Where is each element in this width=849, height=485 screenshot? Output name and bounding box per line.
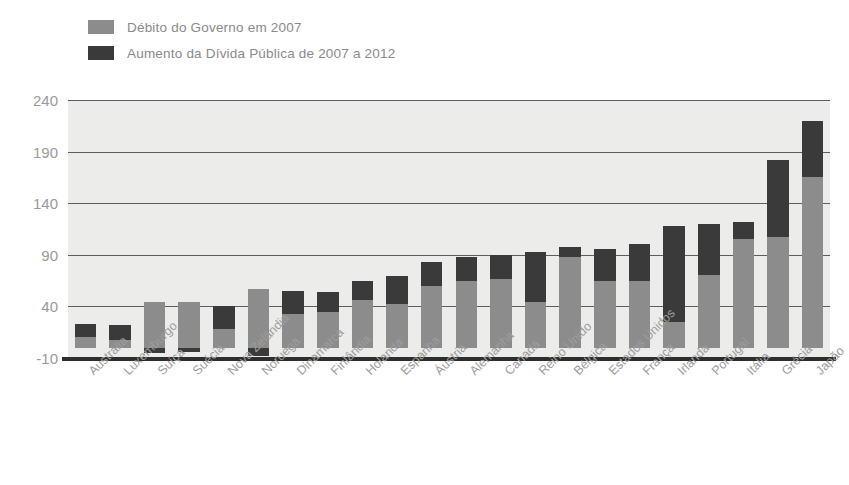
bar-segment-increase [490, 255, 511, 279]
bar-segment-base [178, 302, 199, 347]
bar-segment-increase [629, 244, 650, 280]
chart-legend: Débito do Governo em 2007 Aumento da Dív… [88, 14, 395, 66]
bar-reino-unido[interactable] [525, 100, 546, 358]
bar-segment-base [75, 337, 96, 347]
bar-austrália[interactable] [75, 100, 96, 358]
bar-áustria[interactable] [421, 100, 442, 358]
bar-segment-increase [352, 281, 373, 301]
bar-segment-base [698, 275, 719, 347]
legend-item-increase: Aumento da Dívida Pública de 2007 a 2012 [88, 40, 395, 66]
legend-item-base: Débito do Governo em 2007 [88, 14, 395, 40]
bar-grécia[interactable] [767, 100, 788, 358]
bar-segment-increase [525, 252, 546, 303]
bar-segment-increase [421, 262, 442, 286]
bar-segment-base [767, 237, 788, 347]
legend-swatch-base [88, 20, 114, 34]
bar-segment-increase [213, 306, 234, 329]
bar-japão[interactable] [802, 100, 823, 358]
y-tick-label: 40 [6, 298, 58, 315]
bar-segment-increase [802, 121, 823, 178]
legend-label-increase: Aumento da Dívida Pública de 2007 a 2012 [127, 46, 395, 61]
x-axis-labels: AustráliaLuxemburgoSuíçaSuéciaNova Zelân… [68, 362, 830, 482]
bar-segment-increase [282, 291, 303, 314]
legend-label-base: Débito do Governo em 2007 [127, 20, 302, 35]
legend-swatch-increase [88, 46, 114, 60]
bar-segment-increase [559, 247, 580, 257]
bar-estados-unidos[interactable] [594, 100, 615, 358]
bar-segment-base [802, 177, 823, 347]
bar-suécia[interactable] [178, 100, 199, 358]
y-tick-label: 240 [6, 92, 58, 109]
y-tick-label: 90 [6, 246, 58, 263]
bar-segment-base [456, 281, 477, 348]
bar-segment-increase [698, 224, 719, 276]
y-tick-label: -10 [6, 350, 58, 367]
bar-suíça[interactable] [144, 100, 165, 358]
bar-segment-increase [386, 276, 407, 304]
bar-segment-increase [456, 257, 477, 281]
y-tick-label: 140 [6, 195, 58, 212]
y-axis: -104090140190240 [0, 0, 58, 485]
bar-segment-base [733, 239, 754, 347]
bar-segment-increase [594, 249, 615, 281]
bar-holanda[interactable] [352, 100, 373, 358]
bar-espanha[interactable] [386, 100, 407, 358]
bar-segment-increase [733, 222, 754, 240]
bar-segment-increase [767, 160, 788, 237]
bar-segment-increase [317, 292, 338, 312]
bar-bélgica[interactable] [559, 100, 580, 358]
bar-nova-zelândia[interactable] [213, 100, 234, 358]
bar-luxemburgo[interactable] [109, 100, 130, 358]
bar-itália[interactable] [733, 100, 754, 358]
bars-container [68, 100, 830, 358]
bar-alemanha[interactable] [456, 100, 477, 358]
bar-portugal[interactable] [698, 100, 719, 358]
bar-segment-increase [75, 324, 96, 337]
bar-noruega[interactable] [248, 100, 269, 358]
y-tick-label: 190 [6, 143, 58, 160]
bar-frança[interactable] [629, 100, 650, 358]
bar-segment-base [594, 281, 615, 348]
bar-canadá[interactable] [490, 100, 511, 358]
bar-finlândia[interactable] [317, 100, 338, 358]
